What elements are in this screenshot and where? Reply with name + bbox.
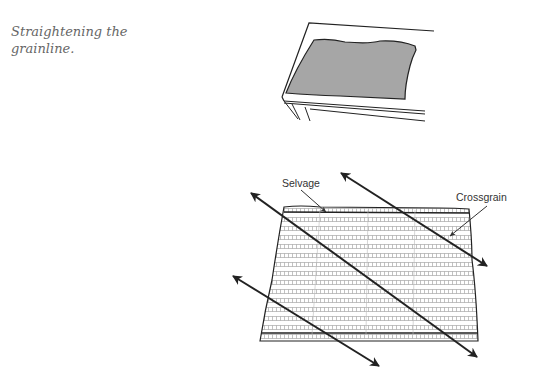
fabric-on-table [286,39,416,99]
woven-fabric [260,206,478,341]
selvage-label: Selvage [282,177,320,189]
crossgrain-label: Crossgrain [456,191,507,203]
grainline-illustration: Selvage Crossgrain [0,0,547,379]
